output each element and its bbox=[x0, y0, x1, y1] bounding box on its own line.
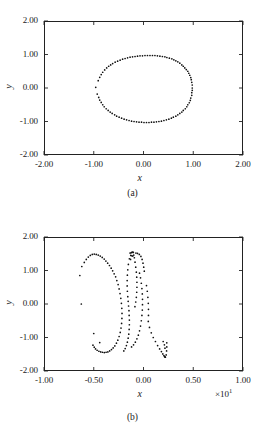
data-point bbox=[136, 121, 138, 123]
data-point bbox=[96, 93, 98, 95]
x-tick-label: -2.00 bbox=[22, 159, 66, 169]
data-point bbox=[134, 341, 136, 343]
data-point bbox=[136, 276, 138, 278]
x-axis-title-a: x bbox=[138, 172, 142, 183]
data-point bbox=[121, 313, 123, 315]
y-tick-label: -1.00 bbox=[0, 332, 38, 342]
data-point bbox=[142, 55, 144, 57]
data-point bbox=[133, 254, 135, 256]
data-point bbox=[102, 71, 104, 73]
data-point bbox=[102, 104, 104, 106]
data-point bbox=[110, 267, 112, 269]
data-point bbox=[188, 102, 190, 104]
data-point bbox=[122, 58, 124, 60]
data-point bbox=[187, 70, 189, 72]
y-tick-label: -2.00 bbox=[0, 365, 38, 375]
data-point bbox=[143, 266, 145, 268]
data-point bbox=[112, 270, 114, 272]
data-point bbox=[159, 55, 161, 57]
data-point bbox=[130, 259, 132, 261]
data-point bbox=[182, 65, 184, 67]
data-point bbox=[99, 99, 101, 101]
data-point bbox=[99, 255, 101, 257]
data-point bbox=[141, 121, 143, 123]
data-point bbox=[97, 80, 99, 82]
data-point bbox=[191, 87, 193, 89]
data-point bbox=[103, 258, 105, 260]
data-point bbox=[103, 106, 105, 108]
data-point bbox=[118, 288, 120, 290]
data-point bbox=[181, 64, 183, 66]
data-point bbox=[179, 113, 181, 115]
data-point bbox=[142, 298, 144, 300]
data-point bbox=[189, 100, 191, 102]
data-point bbox=[147, 296, 149, 298]
data-point bbox=[100, 102, 102, 104]
data-point bbox=[81, 266, 83, 268]
x-tick-label: 1.00 bbox=[171, 159, 215, 169]
data-point bbox=[134, 306, 136, 308]
data-point bbox=[121, 323, 123, 325]
data-point bbox=[119, 59, 121, 61]
data-point bbox=[102, 351, 104, 353]
panel-caption-b: (b) bbox=[0, 412, 265, 422]
data-point bbox=[128, 333, 130, 335]
data-point bbox=[112, 347, 114, 349]
data-point bbox=[119, 332, 121, 334]
data-point bbox=[191, 81, 193, 83]
data-point bbox=[189, 74, 191, 76]
data-point bbox=[181, 111, 183, 113]
data-point bbox=[166, 346, 168, 348]
y-tick-label: 1.00 bbox=[0, 265, 38, 275]
data-point bbox=[85, 259, 87, 261]
data-point bbox=[173, 116, 175, 118]
data-point bbox=[177, 114, 179, 116]
data-point bbox=[119, 293, 121, 295]
data-point bbox=[163, 120, 165, 122]
data-point bbox=[111, 113, 113, 115]
data-point bbox=[157, 55, 159, 57]
data-point bbox=[166, 57, 168, 59]
data-point bbox=[166, 119, 168, 121]
y-tick-label: 1.00 bbox=[0, 49, 38, 59]
data-point bbox=[140, 256, 142, 258]
data-point bbox=[127, 274, 129, 276]
data-point bbox=[148, 122, 150, 124]
data-point bbox=[129, 56, 131, 58]
x-tick-label: -1.00 bbox=[72, 159, 116, 169]
data-point bbox=[120, 297, 122, 299]
data-point bbox=[140, 320, 142, 322]
data-point bbox=[137, 334, 139, 336]
data-point bbox=[113, 273, 115, 275]
data-point bbox=[93, 253, 95, 255]
data-point bbox=[177, 61, 179, 63]
data-point bbox=[91, 254, 93, 256]
data-point bbox=[152, 55, 154, 57]
x-tick-label: 2.00 bbox=[221, 159, 265, 169]
data-point bbox=[100, 351, 102, 353]
data-point bbox=[127, 296, 129, 298]
data-point bbox=[134, 257, 136, 259]
data-point bbox=[151, 121, 153, 123]
data-point bbox=[138, 121, 140, 123]
data-point bbox=[186, 106, 188, 108]
data-point bbox=[136, 281, 138, 283]
data-point bbox=[114, 61, 116, 63]
data-point bbox=[154, 55, 156, 57]
data-point bbox=[156, 121, 158, 123]
data-point bbox=[149, 55, 151, 57]
data-point bbox=[148, 309, 150, 311]
data-point bbox=[103, 352, 105, 354]
data-point bbox=[149, 327, 151, 329]
data-point bbox=[191, 95, 193, 97]
data-point bbox=[105, 108, 107, 110]
data-point bbox=[126, 119, 128, 121]
data-point bbox=[187, 104, 189, 106]
data-point bbox=[80, 303, 82, 305]
data-point bbox=[120, 327, 122, 329]
data-point bbox=[139, 272, 141, 274]
data-point bbox=[128, 310, 130, 312]
data-point bbox=[121, 318, 123, 320]
data-point bbox=[190, 97, 192, 99]
data-point bbox=[191, 89, 193, 91]
